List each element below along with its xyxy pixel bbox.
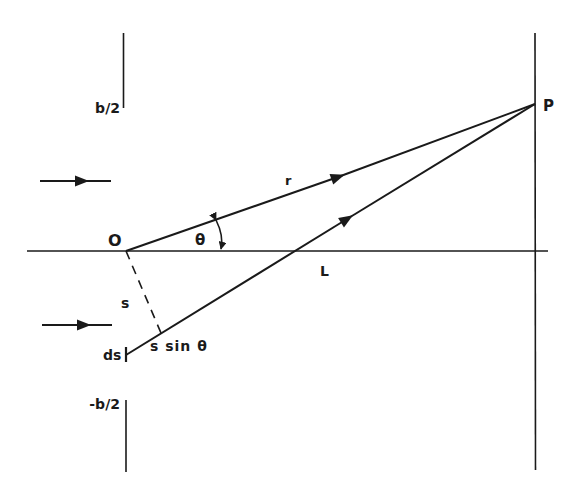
label-point-p: P [543, 97, 554, 115]
diffraction-diagram: b/2 -b/2 O P r θ L s ds s sin θ [0, 0, 578, 497]
angle-arc-theta [216, 220, 222, 249]
label-slit-top: b/2 [95, 100, 120, 116]
label-origin: O [108, 231, 122, 250]
label-slit-bottom: -b/2 [89, 396, 120, 412]
label-ray-r: r [285, 173, 292, 188]
label-axis-point-l: L [320, 263, 329, 279]
label-element-ds: ds [103, 347, 121, 363]
label-offset-s: s [121, 295, 129, 311]
perpendicular-dashed-line [126, 251, 161, 333]
label-path-difference: s sin θ [150, 338, 208, 354]
label-angle-theta: θ [195, 231, 205, 249]
observation-screen [535, 33, 536, 470]
